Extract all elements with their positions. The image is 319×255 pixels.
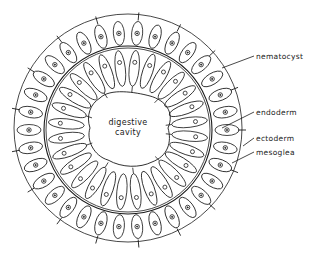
center-label-line2: cavity	[98, 128, 158, 138]
body-wall-diagram: digestive cavity nematocyst endoderm ect…	[0, 0, 319, 255]
label-ectoderm: ectoderm	[256, 134, 294, 143]
label-nematocyst: nematocyst	[256, 52, 303, 61]
center-label-line1: digestive	[98, 118, 158, 128]
leader-line-nematocyst	[222, 56, 254, 68]
leader-line-ectoderm	[243, 138, 254, 146]
leader-line-endoderm	[222, 112, 254, 128]
label-mesoglea: mesoglea	[256, 148, 295, 157]
label-endoderm: endoderm	[256, 108, 297, 117]
digestive-cavity-label: digestive cavity	[98, 118, 158, 138]
leader-line-mesoglea	[232, 152, 254, 163]
cross-section-illustration	[0, 0, 319, 255]
